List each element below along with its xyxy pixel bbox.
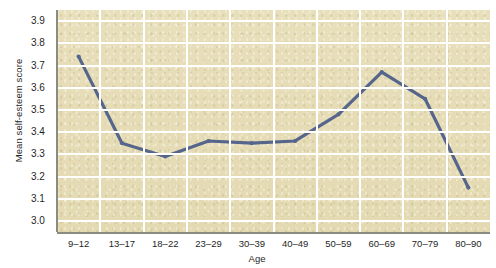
y-axis-tick-labels: 3.03.13.23.33.43.53.63.73.83.9	[0, 0, 496, 268]
x-axis-tick-label: 13–17	[109, 238, 135, 249]
x-axis-tick-label: 60–69	[369, 238, 395, 249]
y-axis-tick-label: 3.8	[31, 38, 57, 48]
y-axis-tick-label: 3.4	[31, 127, 57, 137]
y-axis-tick-label: 3.2	[31, 172, 57, 182]
y-axis-tick-label: 3.9	[31, 16, 57, 26]
x-axis-tick-label: 40–49	[282, 238, 308, 249]
x-axis-title: Age	[0, 253, 496, 264]
x-axis-title-text: Age	[249, 253, 266, 264]
x-axis-tick-label: 50–59	[325, 238, 351, 249]
y-axis-tick-label: 3.5	[31, 105, 57, 115]
self-esteem-by-age-line-chart: Mean self-esteem score 3.03.13.23.33.43.…	[0, 0, 496, 268]
y-axis-tick-label: 3.0	[31, 216, 57, 226]
x-axis-tick-label: 18–22	[152, 238, 178, 249]
x-axis-tick-label: 70–79	[412, 238, 438, 249]
x-axis-tick-label: 80–90	[455, 238, 481, 249]
y-axis-tick-label: 3.1	[31, 194, 57, 204]
y-axis-tick-label: 3.6	[31, 83, 57, 93]
y-axis-tick-label: 3.7	[31, 61, 57, 71]
x-axis-tick-label: 30–39	[239, 238, 265, 249]
x-axis-tick-label: 23–29	[195, 238, 221, 249]
x-axis-tick-label: 9–12	[68, 238, 89, 249]
y-axis-tick-label: 3.3	[31, 149, 57, 159]
